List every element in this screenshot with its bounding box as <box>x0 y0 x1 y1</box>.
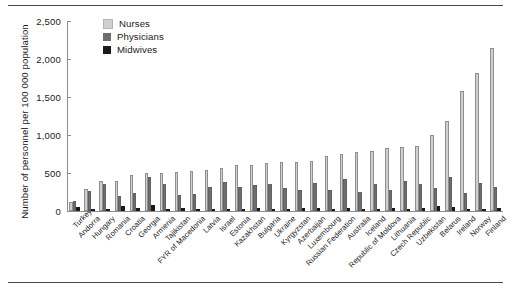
bar-group <box>473 21 488 211</box>
bar-midwives <box>452 207 455 211</box>
chart-figure: Number of personnel per 100 000 populati… <box>0 0 511 296</box>
y-tick-label: 1,000 <box>36 130 61 141</box>
bar-group <box>127 21 142 211</box>
bar-midwives <box>166 209 169 211</box>
bar-midwives <box>272 209 275 211</box>
y-tick-label: 500 <box>45 168 61 179</box>
bar-group <box>398 21 413 211</box>
bar-physicians <box>163 184 166 211</box>
bar-midwives <box>242 209 245 211</box>
bar-group <box>308 21 323 211</box>
y-tick-label: 1,500 <box>36 92 61 103</box>
bar-group <box>157 21 172 211</box>
bar-physicians <box>374 184 377 211</box>
x-axis-tick-labels: TurkeyAndorraHungaryRomaniaCroatiaGeorgi… <box>67 212 503 286</box>
bar-midwives <box>407 209 410 211</box>
bar-midwives <box>91 209 94 211</box>
bar-midwives <box>347 208 350 211</box>
bar-group <box>338 21 353 211</box>
bar-group <box>413 21 428 211</box>
plot-area <box>67 21 503 211</box>
bar-physicians <box>223 182 226 211</box>
bar-group <box>217 21 232 211</box>
bar-physicians <box>283 188 286 211</box>
bar-midwives <box>257 208 260 211</box>
bar-group <box>293 21 308 211</box>
bar-group <box>353 21 368 211</box>
bar-midwives <box>392 208 395 211</box>
y-axis-tick-labels: 05001,0001,5002,0002,500 <box>22 21 61 211</box>
bar-midwives <box>121 206 124 211</box>
bar-group <box>187 21 202 211</box>
bar-group <box>428 21 443 211</box>
bar-group <box>247 21 262 211</box>
bar-group <box>112 21 127 211</box>
bar-midwives <box>317 208 320 211</box>
y-tick-label: 2,000 <box>36 54 61 65</box>
bar-physicians <box>208 187 211 211</box>
bar-physicians <box>313 183 316 211</box>
bar-midwives <box>212 209 215 211</box>
bar-midwives <box>302 208 305 211</box>
bar-midwives <box>227 209 230 211</box>
bar-midwives <box>332 209 335 211</box>
bar-group <box>142 21 157 211</box>
bar-group <box>458 21 473 211</box>
bar-physicians <box>103 184 106 211</box>
bar-group <box>172 21 187 211</box>
bar-group <box>488 21 503 211</box>
bar-group <box>383 21 398 211</box>
bar-midwives <box>437 206 440 211</box>
bar-midwives <box>497 208 500 211</box>
bar-midwives <box>422 208 425 211</box>
bar-midwives <box>151 205 154 211</box>
top-divider-rule <box>8 5 503 6</box>
bar-midwives <box>181 208 184 211</box>
bar-midwives <box>287 209 290 211</box>
bar-midwives <box>136 208 139 211</box>
bar-group <box>97 21 112 211</box>
bar-physicians <box>268 184 271 211</box>
bar-physicians <box>404 181 407 211</box>
bar-group <box>82 21 97 211</box>
bar-midwives <box>106 209 109 211</box>
bar-midwives <box>377 209 380 211</box>
bar-group <box>67 21 82 211</box>
bar-group <box>368 21 383 211</box>
bar-group <box>443 21 458 211</box>
bar-physicians <box>419 184 422 211</box>
bar-group <box>202 21 217 211</box>
bar-midwives <box>467 209 470 211</box>
y-tick-label: 2,500 <box>36 16 61 27</box>
bar-group <box>262 21 277 211</box>
bar-midwives <box>362 209 365 211</box>
bar-midwives <box>76 207 79 211</box>
bar-physicians <box>238 187 241 211</box>
bar-midwives <box>482 209 485 211</box>
y-tick-label: 0 <box>56 206 61 217</box>
bar-midwives <box>196 209 199 211</box>
bar-group <box>323 21 338 211</box>
bar-physicians <box>479 183 482 211</box>
bar-physicians <box>328 190 331 211</box>
bar-group <box>232 21 247 211</box>
bar-physicians <box>343 179 346 211</box>
bar-group <box>277 21 292 211</box>
